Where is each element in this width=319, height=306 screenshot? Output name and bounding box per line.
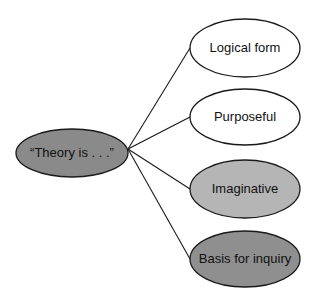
connector-line xyxy=(128,48,190,149)
branch-nodes: Logical form Purposeful Imaginative Basi… xyxy=(190,19,300,287)
center-node: “Theory is . . .” xyxy=(16,129,128,177)
branch-node-imaginative: Imaginative xyxy=(190,160,300,218)
theory-diagram: “Theory is . . .” Logical form Purposefu… xyxy=(0,0,319,306)
branch-label: Logical form xyxy=(210,40,281,55)
branch-label: Purposeful xyxy=(214,109,276,124)
branch-node-purposeful: Purposeful xyxy=(190,89,300,145)
connector-line xyxy=(128,149,190,189)
branch-label: Imaginative xyxy=(212,181,278,196)
connectors xyxy=(128,48,190,259)
branch-node-basis-for-inquiry: Basis for inquiry xyxy=(190,231,300,287)
branch-node-logical-form: Logical form xyxy=(190,19,300,77)
center-label: “Theory is . . .” xyxy=(30,145,114,160)
diagram-svg: “Theory is . . .” Logical form Purposefu… xyxy=(0,0,319,306)
connector-line xyxy=(128,149,190,259)
branch-label: Basis for inquiry xyxy=(199,251,292,266)
